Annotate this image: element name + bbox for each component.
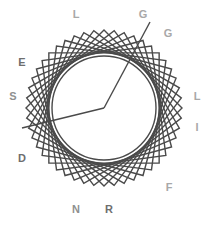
figure-root: LGGLIFRNDSE [0, 0, 208, 226]
rotating-squares-diagram [0, 0, 208, 226]
